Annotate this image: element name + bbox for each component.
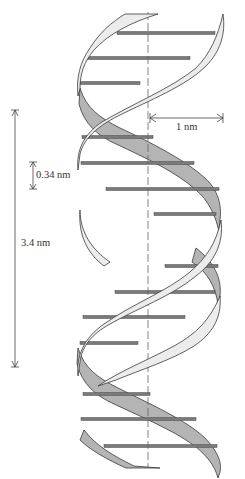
pitch-label: 3.4 nm xyxy=(21,237,50,248)
base-pair xyxy=(83,393,150,396)
pitch-dimension xyxy=(11,110,19,367)
base-pair xyxy=(104,445,217,448)
base-pair xyxy=(81,162,194,165)
width-label: 1 nm xyxy=(176,121,197,132)
base-pair xyxy=(165,265,218,268)
base-pair xyxy=(117,32,215,35)
base-pair xyxy=(154,213,216,216)
base-pair xyxy=(106,188,219,191)
base-pair xyxy=(82,136,153,139)
base-pair xyxy=(81,418,196,421)
base-pair xyxy=(87,57,190,60)
rise-label: 0.34 nm xyxy=(36,169,70,180)
front-strand xyxy=(78,14,224,386)
base-pair xyxy=(83,316,185,319)
base-pair xyxy=(80,82,140,85)
